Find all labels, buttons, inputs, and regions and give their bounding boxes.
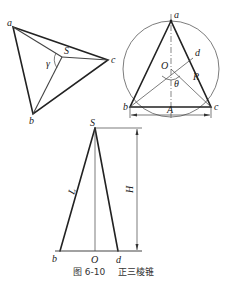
gamma-angle-arc <box>54 53 57 68</box>
label-O: O <box>161 60 168 71</box>
pyramid-base-outline <box>13 27 108 114</box>
label-gamma: γ <box>46 58 51 69</box>
edge-Sd <box>95 128 118 251</box>
label-a: a <box>174 9 179 20</box>
side-triangle-view: S b O d L H <box>52 117 142 265</box>
label-L: L <box>65 186 78 196</box>
label-d: d <box>116 254 122 265</box>
figure-canvas: a S c b γ a b c d O R θ A <box>0 0 228 284</box>
label-theta: θ <box>174 78 179 89</box>
label-a: a <box>7 17 12 28</box>
label-R: R <box>192 71 199 82</box>
label-O: O <box>91 254 98 265</box>
label-H: H <box>124 185 135 194</box>
arrow-right-icon <box>204 114 210 117</box>
label-b: b <box>123 101 128 112</box>
label-c: c <box>214 101 219 112</box>
figure-caption-title: 正三棱锥 <box>118 266 154 277</box>
label-c: c <box>111 54 116 65</box>
label-b: b <box>29 115 34 126</box>
label-S: S <box>90 117 95 128</box>
arrow-up-icon <box>136 129 139 135</box>
vertex-dot-a <box>170 20 173 23</box>
equilateral-triangle <box>130 21 211 107</box>
label-b: b <box>52 253 57 264</box>
arrow-down-icon <box>136 244 139 250</box>
arrow-left-icon <box>131 114 137 117</box>
oblique-pyramid-view: a S c b γ <box>7 17 116 126</box>
label-A: A <box>166 104 174 115</box>
label-S: S <box>64 45 69 56</box>
figure-caption-number: 图 6-10 <box>73 267 106 277</box>
label-d: d <box>195 47 201 58</box>
circumcircle-view: a b c d O R θ A <box>123 9 219 118</box>
edge-L <box>60 128 95 251</box>
